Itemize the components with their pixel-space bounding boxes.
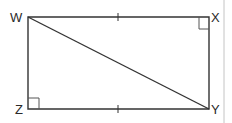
right-angle-mark-z	[28, 98, 39, 109]
vertex-label-y: Y	[211, 103, 220, 116]
rectangle-diagram	[0, 0, 232, 123]
vertex-label-z: Z	[15, 103, 23, 116]
vertex-label-x: X	[211, 11, 220, 24]
right-angle-mark-x	[199, 17, 209, 29]
vertex-label-w: W	[10, 11, 22, 24]
diagonal-wy	[28, 17, 209, 109]
